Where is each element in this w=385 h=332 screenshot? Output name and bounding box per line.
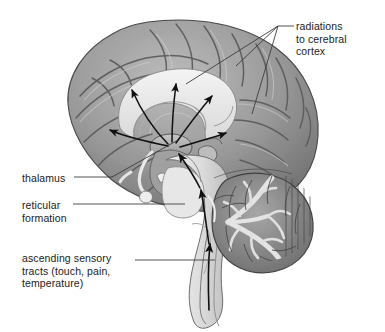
- brain-diagram-figure: radiations to cerebral cortex thalamus r…: [0, 0, 385, 332]
- cerebellum-group: [208, 173, 313, 273]
- label-ascending-sensory-tracts: ascending sensory tracts (touch, pain, t…: [22, 252, 111, 290]
- label-radiations-to-cerebral-cortex: radiations to cerebral cortex: [296, 20, 347, 58]
- label-thalamus: thalamus: [22, 172, 65, 185]
- label-reticular-formation: reticular formation: [22, 199, 67, 224]
- pituitary-gland: [140, 191, 153, 203]
